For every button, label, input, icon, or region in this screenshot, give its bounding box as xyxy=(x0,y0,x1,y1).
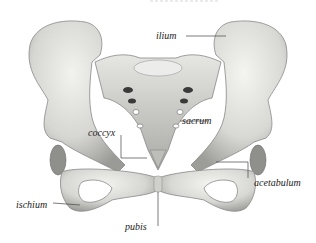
left-acetabulum xyxy=(50,145,66,175)
label-ischium: ischium xyxy=(16,200,47,210)
label-ilium: ilium xyxy=(156,31,177,41)
right-ischium-pubis xyxy=(158,169,256,211)
label-pubis: pubis xyxy=(125,222,147,232)
label-acetabulum: acetabulum xyxy=(254,178,301,188)
pelvis-diagram: ilium sacrum coccyx acetabulum ischium p… xyxy=(0,0,316,243)
right-acetabulum xyxy=(250,145,266,175)
label-coccyx: coccyx xyxy=(88,128,115,138)
label-sacrum: sacrum xyxy=(182,116,211,126)
pubic-symphysis xyxy=(154,176,162,192)
